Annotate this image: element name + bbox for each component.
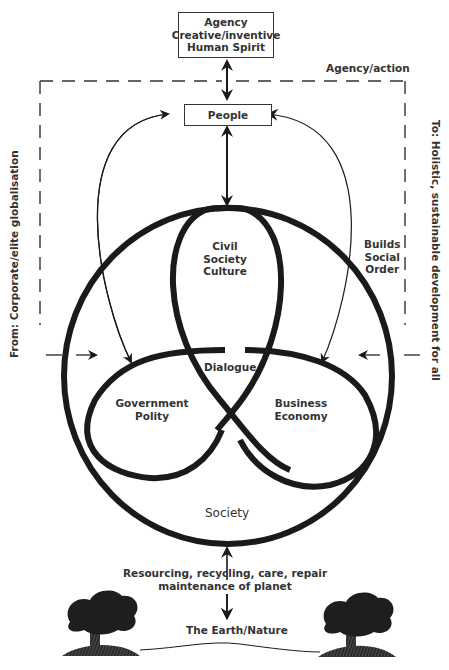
civil-society-label: Civil Society Culture [200, 240, 250, 278]
resourcing-label: Resourcing, recycling, care, repair main… [120, 567, 330, 592]
builds-line-2: Social [364, 251, 400, 264]
earth-nature-label: The Earth/Nature [186, 624, 288, 637]
ground-line [140, 643, 320, 652]
society-label: Society [205, 507, 249, 520]
agency-subtitle-1: Creative/inventive [172, 29, 281, 42]
people-box: People [184, 104, 272, 126]
dialogue-label: Dialogue [204, 361, 256, 374]
resourcing-line-2: maintenance of planet [120, 580, 330, 593]
builds-social-order-label: Builds Social Order [364, 238, 400, 276]
people-label: People [208, 109, 248, 122]
tree-icon-left [62, 590, 140, 656]
resourcing-line-1: Resourcing, recycling, care, repair [120, 567, 330, 580]
agency-title: Agency [172, 16, 281, 29]
business-line-2: Economy [266, 410, 336, 423]
builds-line-3: Order [364, 263, 400, 276]
agency-box: Agency Creative/inventive Human Spirit [178, 12, 274, 58]
civil-line-2: Society [200, 253, 250, 266]
tree-icon-right [318, 592, 396, 657]
government-polity-label: Government Polity [112, 397, 192, 422]
left-side-label: From: Corporate/elite globalisation [8, 150, 20, 358]
builds-line-1: Builds [364, 238, 400, 251]
government-line-1: Government [112, 397, 192, 410]
right-side-label: To: Holistic, sustainable development fo… [430, 120, 442, 381]
business-economy-label: Business Economy [266, 397, 336, 422]
agency-subtitle-2: Human Spirit [172, 41, 281, 54]
civil-line-1: Civil [200, 240, 250, 253]
civil-line-3: Culture [200, 265, 250, 278]
business-line-1: Business [266, 397, 336, 410]
agency-action-label: Agency/action [326, 62, 410, 75]
government-line-2: Polity [112, 410, 192, 423]
